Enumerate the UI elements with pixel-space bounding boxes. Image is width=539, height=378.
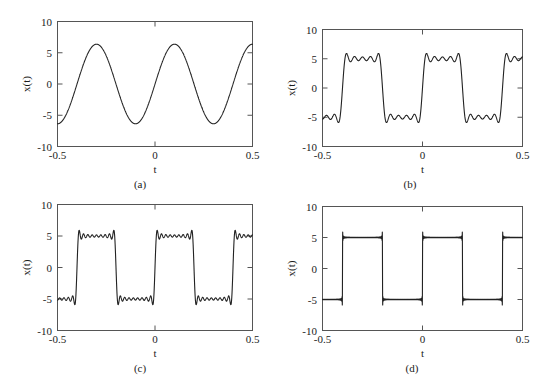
panel-d-plot: 10 5 0 -5 -10 -0.5 0 0.5 t x(t) (d) xyxy=(265,185,539,378)
panel-a-xtick-neg05: -0.5 xyxy=(49,149,67,161)
panel-a-ytick-10: 10 xyxy=(41,16,53,28)
panel-b: 10 5 0 -5 -10 -0.5 0 0.5 t x(t) (b) xyxy=(265,0,539,190)
panel-a-xtick-05: 0.5 xyxy=(246,149,260,161)
panel-b-xtick-05: 0.5 xyxy=(516,149,530,161)
panel-c-caption: (c) xyxy=(134,362,147,375)
panel-c-ytick-labels: 10 5 0 -5 -10 xyxy=(37,199,52,337)
panel-d-xtick-0: 0 xyxy=(420,333,426,345)
panel-c-plot: 10 5 0 -5 -10 -0.5 0 0.5 t x(t) (c) xyxy=(0,185,270,378)
panel-b-ytick-labels: 10 5 0 -5 -10 xyxy=(302,24,317,153)
panel-b-yaxis-label: x(t) xyxy=(285,80,298,96)
panel-b-xtick-0: 0 xyxy=(420,149,426,161)
panel-b-ytick-5: 5 xyxy=(312,53,318,65)
panel-a-plot: 10 5 0 -5 -10 -0.5 0 0.5 t x(t) (a) xyxy=(0,0,270,190)
panel-b-xtick-neg05: -0.5 xyxy=(314,149,332,161)
panel-d: 10 5 0 -5 -10 -0.5 0 0.5 t x(t) (d) xyxy=(265,185,539,378)
panel-d-caption: (d) xyxy=(406,362,419,375)
panel-c-xtick-05: 0.5 xyxy=(246,333,260,345)
panel-d-ytick-0: 0 xyxy=(312,263,318,275)
panel-d-yaxis-label: x(t) xyxy=(285,260,298,276)
panel-a-xaxis-label: t xyxy=(153,163,156,175)
panel-d-ytick-10: 10 xyxy=(306,201,318,213)
panel-d-ytick-neg5: -5 xyxy=(308,294,318,306)
panel-c-xtick-labels: -0.5 0 0.5 xyxy=(49,333,260,345)
panel-d-ytick-5: 5 xyxy=(312,232,318,244)
panel-d-ytick-labels: 10 5 0 -5 -10 xyxy=(302,201,317,337)
panel-a-ytick-neg5: -5 xyxy=(43,109,53,121)
panel-c-ytick-neg5: -5 xyxy=(43,293,53,305)
panel-c-xtick-neg05: -0.5 xyxy=(49,333,67,345)
panel-b-xtick-labels: -0.5 0 0.5 xyxy=(314,149,530,161)
panel-b-ytick-neg5: -5 xyxy=(308,111,318,123)
panel-c-ytick-10: 10 xyxy=(41,199,53,211)
panel-a-xtick-0: 0 xyxy=(152,149,158,161)
panel-b-xaxis-label: t xyxy=(421,163,424,175)
panel-a-xtick-labels: -0.5 0 0.5 xyxy=(49,149,260,161)
panel-a-yaxis-label: x(t) xyxy=(20,76,33,92)
figure-canvas: 10 5 0 -5 -10 -0.5 0 0.5 t x(t) (a) xyxy=(0,0,539,378)
panel-d-xtick-05: 0.5 xyxy=(516,333,530,345)
panel-c-ytick-0: 0 xyxy=(47,262,53,274)
panel-b-plot: 10 5 0 -5 -10 -0.5 0 0.5 t x(t) (b) xyxy=(265,0,539,190)
panel-d-curve xyxy=(323,232,523,305)
panel-d-xaxis-label: t xyxy=(421,347,424,359)
panel-c-curve xyxy=(58,230,253,304)
panel-c-xtick-0: 0 xyxy=(152,333,158,345)
panel-b-ytick-10: 10 xyxy=(306,24,318,36)
panel-c-ytick-5: 5 xyxy=(47,230,53,242)
panel-d-xtick-labels: -0.5 0 0.5 xyxy=(314,333,530,345)
panel-b-curve xyxy=(323,53,523,122)
panel-a-curve xyxy=(58,44,253,124)
panel-b-ytick-0: 0 xyxy=(312,82,318,94)
panel-d-xtick-neg05: -0.5 xyxy=(314,333,332,345)
panel-a-ytick-0: 0 xyxy=(47,78,53,90)
panel-a-ytick-labels: 10 5 0 -5 -10 xyxy=(37,16,52,153)
panel-c-yaxis-label: x(t) xyxy=(20,259,33,275)
panel-c: 10 5 0 -5 -10 -0.5 0 0.5 t x(t) (c) xyxy=(0,185,270,378)
panel-c-xaxis-label: t xyxy=(153,347,156,359)
panel-a-ytick-5: 5 xyxy=(47,47,53,59)
panel-a: 10 5 0 -5 -10 -0.5 0 0.5 t x(t) (a) xyxy=(0,0,270,190)
